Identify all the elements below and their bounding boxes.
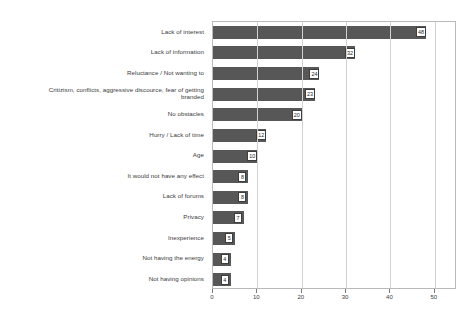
bar-value-label: 5	[225, 233, 233, 243]
tick-mark	[301, 289, 302, 293]
tick-label: 0	[210, 294, 213, 300]
tick-mark	[389, 289, 390, 293]
category-label: Age	[193, 151, 204, 158]
bar-chart: Lack of interestLack of informationReluc…	[0, 0, 468, 326]
bar-value-label: 7	[234, 213, 242, 223]
tick-mark	[434, 289, 435, 293]
bar-row: 4	[213, 253, 457, 266]
gridline	[390, 22, 391, 288]
tick-mark	[345, 289, 346, 293]
bar	[213, 26, 426, 39]
bar-value-label: 10	[247, 151, 257, 161]
x-axis-tick-labels: 01020304050	[212, 294, 456, 306]
bar-value-label: 23	[305, 89, 315, 99]
bar	[213, 46, 355, 59]
category-label: Lack of interest	[161, 28, 204, 35]
bar-value-label: 8	[238, 192, 246, 202]
bar-row: 12	[213, 129, 457, 142]
gridline	[257, 22, 258, 288]
tick-label: 30	[342, 294, 349, 300]
category-label: Privacy	[183, 213, 204, 220]
gridline	[346, 22, 347, 288]
bar-value-label: 20	[292, 110, 302, 120]
bar-row: 10	[213, 150, 457, 163]
gridline	[435, 22, 436, 288]
tick-mark	[256, 289, 257, 293]
category-label: Inexperience	[168, 234, 204, 241]
bar-value-label: 4	[221, 254, 229, 264]
category-label: It would not have any effect	[127, 172, 204, 179]
category-label: Lack of information	[151, 48, 204, 55]
bar-row: 32	[213, 46, 457, 59]
tick-mark	[212, 289, 213, 293]
bar-row: 48	[213, 26, 457, 39]
plot-area: 48322423201210887544	[212, 21, 456, 289]
bar-value-label: 48	[416, 27, 426, 37]
bar-row: 4	[213, 273, 457, 286]
tick-label: 20	[297, 294, 304, 300]
bar	[213, 67, 319, 80]
bars-layer: 48322423201210887544	[213, 22, 455, 288]
bar-row: 24	[213, 67, 457, 80]
category-label: No obstacles	[168, 110, 204, 117]
category-label: Hurry / Lack of time	[149, 131, 204, 138]
bar-row: 5	[213, 232, 457, 245]
bar-value-label: 4	[221, 275, 229, 285]
bar-row: 7	[213, 211, 457, 224]
bar-row: 8	[213, 191, 457, 204]
bar-row: 20	[213, 108, 457, 121]
category-label: Critizism, conflicts, aggressive discour…	[49, 86, 204, 101]
bar-row: 8	[213, 170, 457, 183]
tick-label: 40	[386, 294, 393, 300]
tick-label: 50	[430, 294, 437, 300]
bar-value-label: 24	[309, 69, 319, 79]
gridline	[302, 22, 303, 288]
tick-label: 10	[253, 294, 260, 300]
bar	[213, 88, 315, 101]
bar-value-label: 8	[238, 172, 246, 182]
category-label: Lack of forums	[163, 192, 204, 199]
category-label: Not having opinions	[149, 275, 204, 282]
category-axis-labels: Lack of interestLack of informationReluc…	[0, 21, 208, 289]
category-label: Not having the energy	[142, 254, 204, 261]
category-label: Reluctance / Not wanting to	[127, 69, 204, 76]
bar-row: 23	[213, 88, 457, 101]
